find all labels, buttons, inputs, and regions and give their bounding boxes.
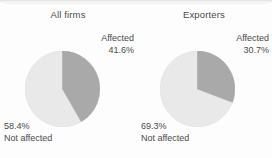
- label-not-affected-caption-all-firms: Not affected: [4, 133, 52, 145]
- label-affected-all-firms: Affected 41.6%: [101, 33, 134, 56]
- label-affected-caption-exporters: Affected: [236, 33, 269, 43]
- pie-exporters: [160, 51, 235, 127]
- label-not-affected-pct-exporters: 69.3%: [141, 121, 189, 133]
- pie-svg-exporters: [160, 51, 235, 127]
- label-affected-exporters: Affected 30.7%: [236, 33, 269, 56]
- pie-all-firms: [25, 51, 100, 127]
- panel-title-exporters: Exporters: [136, 9, 272, 20]
- label-affected-pct-all-firms: 41.6%: [101, 45, 134, 57]
- label-not-affected-pct-all-firms: 58.4%: [4, 121, 52, 133]
- label-not-affected-exporters: 69.3% Not affected: [141, 121, 189, 144]
- label-affected-pct-exporters: 30.7%: [236, 45, 269, 57]
- pie-chart-figure: All firms Affected 41.6% 58.4% Not affec…: [0, 0, 272, 158]
- panel-title-all-firms: All firms: [0, 9, 136, 20]
- chart-panel-all-firms: All firms Affected 41.6% 58.4% Not affec…: [0, 0, 136, 158]
- label-affected-caption-all-firms: Affected: [101, 33, 134, 43]
- label-not-affected-caption-exporters: Not affected: [141, 133, 189, 145]
- chart-panel-exporters: Exporters Affected 30.7% 69.3% Not affec…: [136, 0, 272, 158]
- label-not-affected-all-firms: 58.4% Not affected: [4, 121, 52, 144]
- pie-svg-all-firms: [25, 51, 100, 127]
